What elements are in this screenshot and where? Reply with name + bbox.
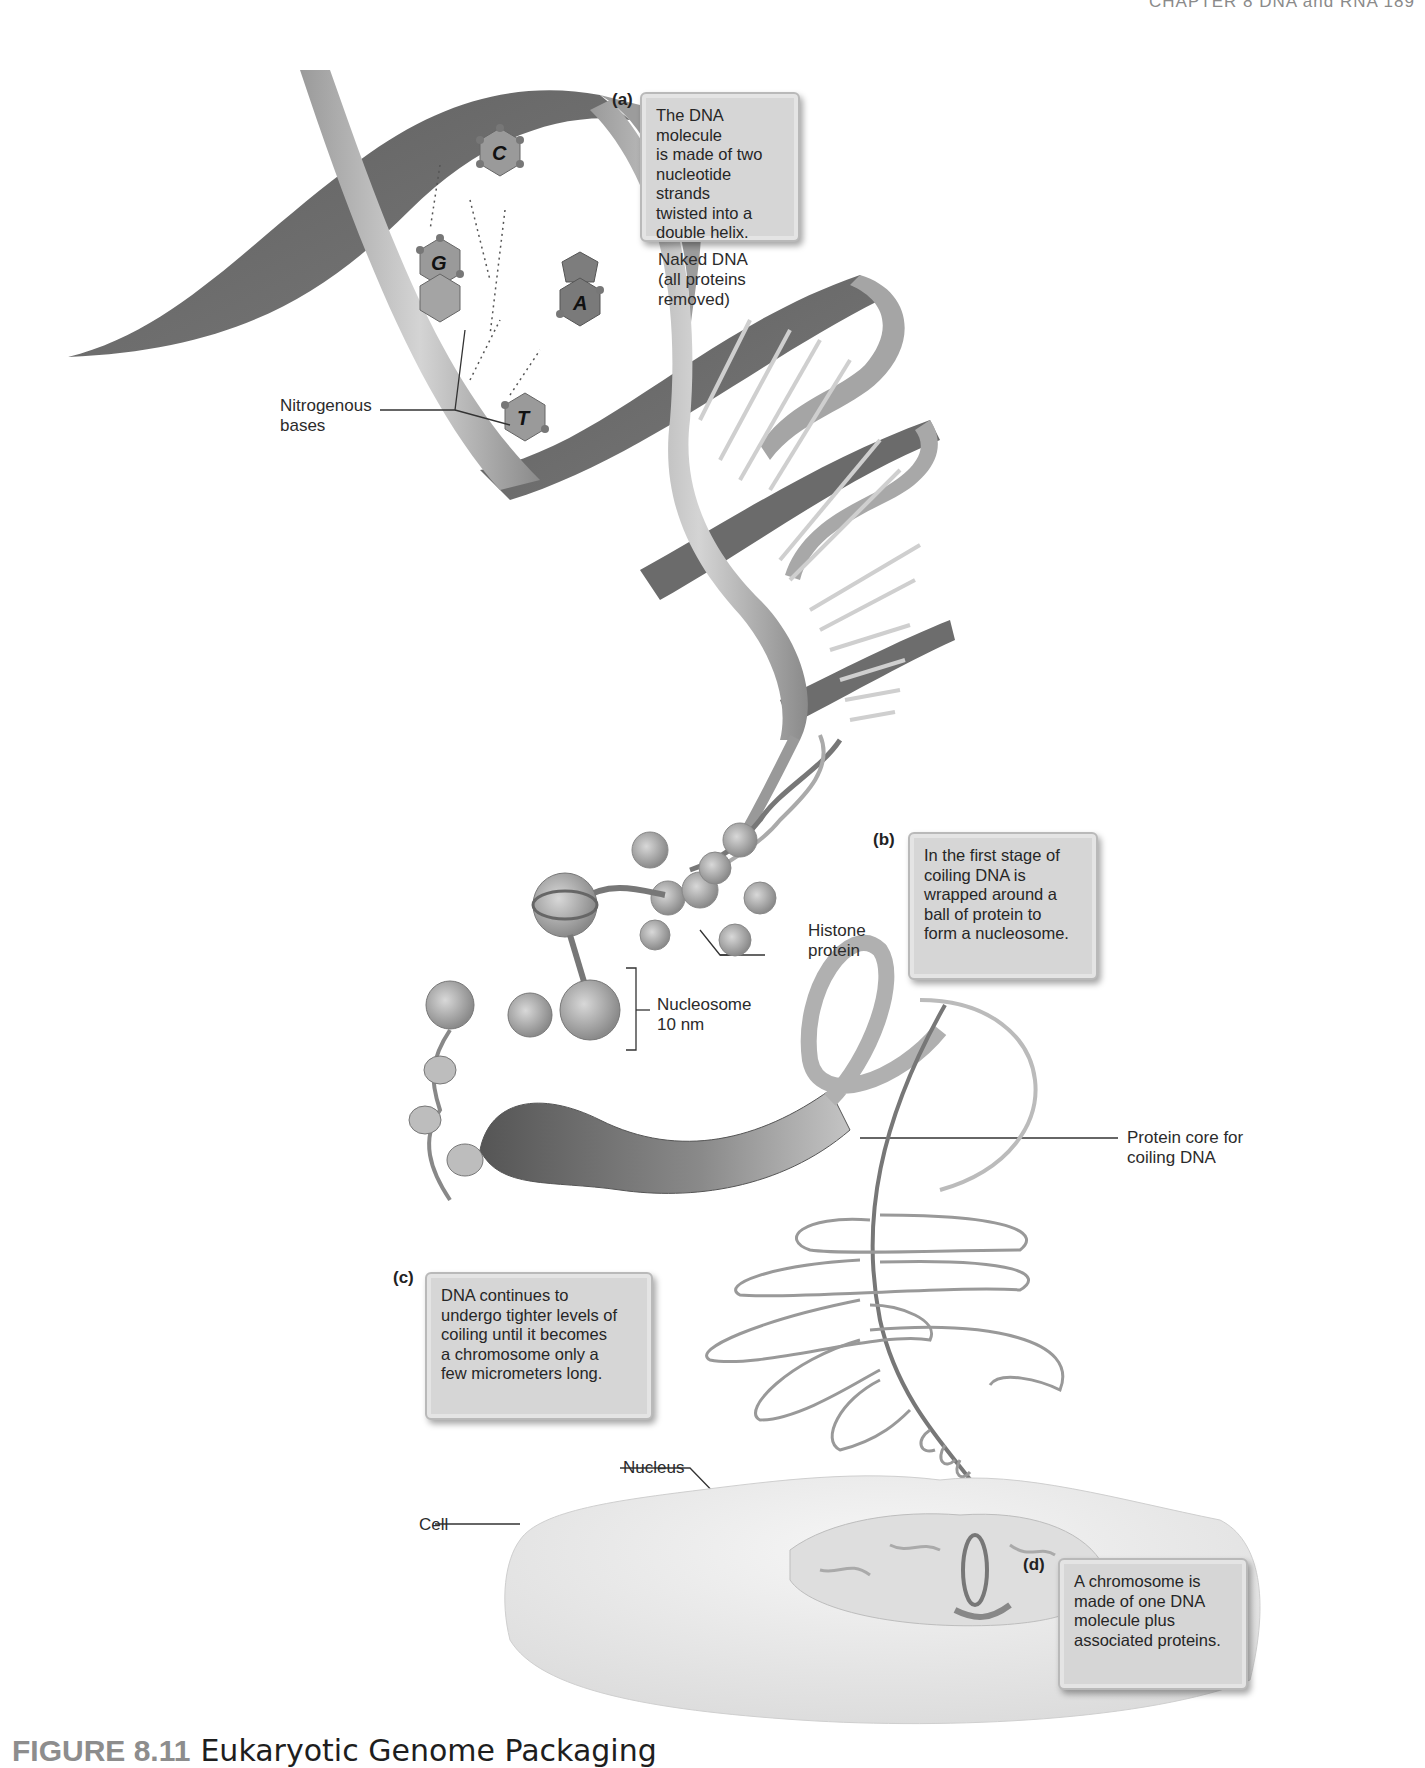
label-nitrogenous-bases: Nitrogenous bases xyxy=(280,396,372,436)
label-naked-dna: Naked DNA (all proteins removed) xyxy=(658,250,748,310)
panel-a-letter: (a) xyxy=(612,90,633,110)
panel-c-letter: (c) xyxy=(393,1268,414,1288)
panel-b-letter: (b) xyxy=(873,830,895,850)
label-cell: Cell xyxy=(419,1515,448,1535)
callout-b: In the first stage of coiling DNA is wra… xyxy=(908,832,1098,980)
label-protein-core: Protein core for coiling DNA xyxy=(1127,1128,1243,1168)
base-t-label: T xyxy=(517,407,531,429)
label-histone-protein: Histone protein xyxy=(808,921,866,961)
callout-c: DNA continues to undergo tighter levels … xyxy=(425,1272,653,1420)
histone-proteins xyxy=(632,823,776,956)
figure-number: FIGURE 8.11 xyxy=(12,1734,190,1767)
coiled-chromatin xyxy=(480,1090,850,1193)
base-a-label: A xyxy=(572,292,587,314)
label-nucleosome: Nucleosome 10 nm xyxy=(657,995,752,1035)
panel-d-letter: (d) xyxy=(1023,1555,1045,1575)
callout-d: A chromosome is made of one DNA molecule… xyxy=(1058,1558,1248,1690)
figure-caption: FIGURE 8.11Eukaryotic Genome Packaging xyxy=(12,1733,657,1768)
chromatin-loops xyxy=(707,1215,1063,1477)
figure-title: Eukaryotic Genome Packaging xyxy=(200,1733,656,1768)
base-g-label: G xyxy=(431,252,447,274)
callout-a: The DNA molecule is made of two nucleoti… xyxy=(640,92,800,242)
label-nucleus: Nucleus xyxy=(623,1458,684,1478)
base-c-label: C xyxy=(492,142,507,164)
